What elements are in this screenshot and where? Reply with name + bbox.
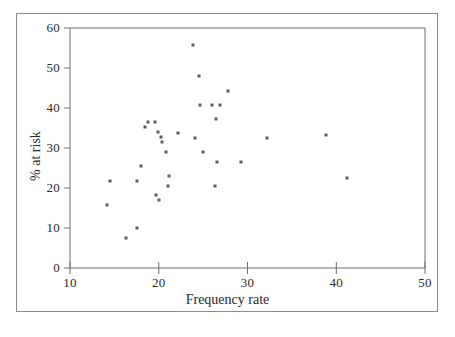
scatter-point (216, 161, 219, 164)
y-tick-label-50: 50 (38, 60, 60, 76)
x-tick-label-50: 50 (418, 275, 431, 291)
scatter-point (161, 141, 164, 144)
scatter-point (136, 179, 139, 182)
scatter-point (159, 135, 162, 138)
x-tick-label-20: 20 (152, 275, 165, 291)
scatter-point (108, 179, 111, 182)
scatter-point (325, 134, 328, 137)
scatter-point (156, 131, 159, 134)
y-tick-label-60: 60 (38, 20, 60, 36)
scatter-point (211, 103, 214, 106)
y-axis-title: % at risk (28, 96, 44, 216)
x-tick-label-10: 10 (63, 275, 76, 291)
x-tick-label-40: 40 (330, 275, 343, 291)
scatter-point (124, 237, 127, 240)
scatter-point (226, 90, 229, 93)
scatter-point (215, 118, 218, 121)
y-tick-label-10: 10 (38, 220, 60, 236)
scatter-point (164, 151, 167, 154)
x-axis-title: Frequency rate (0, 292, 455, 308)
scatter-point (140, 165, 143, 168)
scatter-point (197, 75, 200, 78)
y-axis-ticks (64, 28, 70, 268)
axis-lines (70, 28, 425, 268)
scatter-point (218, 103, 221, 106)
scatter-point (155, 194, 158, 197)
scatter-point (345, 177, 348, 180)
scatter-point (202, 151, 205, 154)
scatter-point (166, 185, 169, 188)
scatter-point (147, 121, 150, 124)
scatter-point (154, 121, 157, 124)
scatter-point (106, 203, 109, 206)
scatter-point (192, 43, 195, 46)
scatter-point (177, 131, 180, 134)
scatter-plot-figure: 60 50 40 30 20 10 0 10 20 30 40 50 Frequ… (0, 0, 455, 337)
scatter-point (198, 103, 201, 106)
x-tick-label-30: 30 (241, 275, 254, 291)
scatter-point (240, 161, 243, 164)
scatter-point (194, 137, 197, 140)
scatter-point (143, 126, 146, 129)
scatter-point (135, 227, 138, 230)
y-tick-label-0: 0 (38, 260, 60, 276)
scatter-point (168, 175, 171, 178)
scatter-point (213, 185, 216, 188)
scatter-point (266, 137, 269, 140)
scatter-point (157, 199, 160, 202)
